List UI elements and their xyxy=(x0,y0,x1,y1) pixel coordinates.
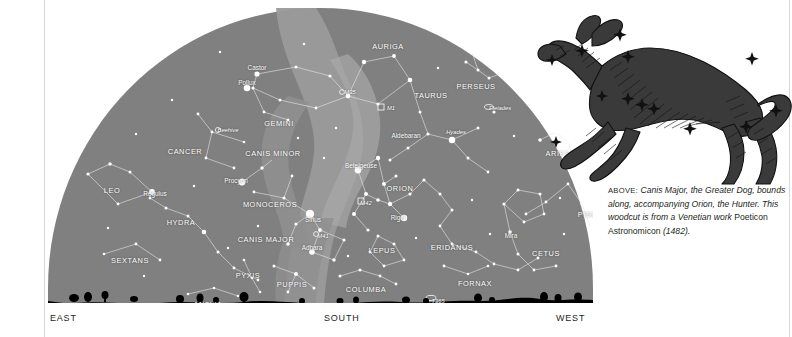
dso-label-t365: T365 xyxy=(431,298,444,303)
dso-label-m1: M1 xyxy=(387,105,395,111)
caption-line-2: the Greater Dog, bounds xyxy=(691,185,786,195)
constellation-label-orion: ORION xyxy=(387,184,414,193)
caption-line-7-italic: (1482). xyxy=(663,226,690,236)
constellation-label-perseus: PERSEUS xyxy=(456,82,495,91)
constellation-label-pisces: PISCES xyxy=(578,210,593,219)
dso-label-m41: M41 xyxy=(317,233,328,239)
star-label-pollux: Pollux xyxy=(238,79,255,86)
figure-caption: ABOVE: Canis Major, the Greater Dog, bou… xyxy=(608,184,788,238)
page-rule-left xyxy=(44,0,45,337)
constellation-label-pyxis: PYXIS xyxy=(236,271,261,280)
constellation-label-monoceros: MONOCEROS xyxy=(243,200,297,209)
star-label-regulus: Regulus xyxy=(143,190,166,197)
star-label-sirius: Sirius xyxy=(305,216,321,223)
constellation-label-fornax: FORNAX xyxy=(458,279,492,288)
dso-label-m42: M42 xyxy=(360,200,371,206)
caption-line-3: along, accompanying xyxy=(608,199,689,209)
dso-label-m35: M35 xyxy=(344,89,355,95)
compass-label-west: WEST xyxy=(556,313,585,323)
constellation-label-cancer: CANCER xyxy=(168,147,203,156)
caption-line-6-roman: Poeticon xyxy=(734,212,767,222)
dso-label-pleiades: Pleiades xyxy=(489,105,511,111)
constellation-lines xyxy=(88,52,590,296)
caption-above-label: ABOVE: xyxy=(608,186,638,195)
star-label-mira: Mira xyxy=(505,232,517,239)
sky-dome: AURIGA PERSEUS TAURUS GEMINI CANIS MINOR… xyxy=(48,8,593,303)
constellation-label-taurus: TAURUS xyxy=(414,91,447,100)
constellation-label-cetus: CETUS xyxy=(532,249,560,258)
star-label-procyon: Procyon xyxy=(224,177,247,184)
illustration-panel: ABOVE: Canis Major, the Greater Dog, bou… xyxy=(596,0,789,337)
compass-label-south: SOUTH xyxy=(324,313,360,323)
star-label-castor: Castor xyxy=(248,64,267,71)
constellation-label-leo: LEO xyxy=(104,186,120,195)
constellation-label-canis-minor: CANIS MINOR xyxy=(245,149,300,158)
canis-major-woodcut-illustration xyxy=(530,4,792,186)
star-chart: AURIGA PERSEUS TAURUS GEMINI CANIS MINOR… xyxy=(48,8,593,320)
dso-label-beehive: Beehive xyxy=(218,127,239,133)
constellation-label-columba: COLUMBA xyxy=(346,285,386,294)
caption-line-4: Orion, the Hunter. xyxy=(692,199,760,209)
caption-line-1: Canis Major, xyxy=(640,185,688,195)
constellation-label-caelum: CAELUM xyxy=(361,302,395,304)
horizon-treeline xyxy=(48,291,593,303)
constellation-label-auriga: AURIGA xyxy=(372,42,404,51)
constellation-label-eridanus: ERIDANUS xyxy=(431,243,474,252)
constellation-label-antlia: ANTLIA xyxy=(193,300,222,304)
star-label-betelgeuse: Betelgeuse xyxy=(345,162,377,169)
constellation-label-sextans: SEXTANS xyxy=(111,256,149,265)
constellation-label-lepus: LEPUS xyxy=(369,246,396,255)
compass-label-east: EAST xyxy=(50,313,77,323)
constellation-label-gemini: GEMINI xyxy=(264,119,294,128)
star-label-rigel: Rigel xyxy=(391,214,406,221)
dso-label-hyades: Hyades xyxy=(446,129,466,135)
caption-line-7-roman: Astronomicon xyxy=(608,226,661,236)
star-label-adhara: Adhara xyxy=(302,244,323,251)
constellation-label-puppis: PUPPIS xyxy=(277,280,307,289)
star-label-aldebaran: Aldebaran xyxy=(391,132,420,139)
constellation-label-canis-major: CANIS MAJOR xyxy=(238,235,295,244)
constellation-label-hydra: HYDRA xyxy=(167,218,196,227)
caption-line-6-italic: Venetian work xyxy=(678,212,732,222)
